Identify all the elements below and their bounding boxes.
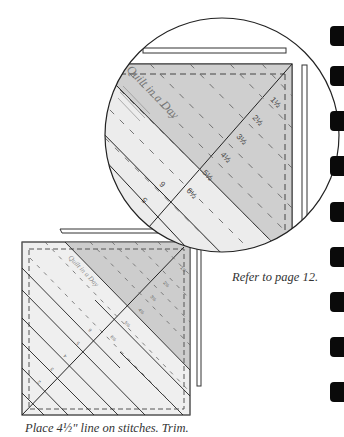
refer-caption: Refer to page 12. <box>232 270 318 285</box>
edge-tab <box>330 111 344 131</box>
edge-tab <box>330 247 344 267</box>
edge-tab <box>330 292 344 312</box>
edge-tab <box>330 202 344 222</box>
edge-tab <box>330 66 344 86</box>
edge-tab <box>330 156 344 176</box>
edge-tab <box>330 26 344 46</box>
small-ruler-square: 1½ 2½ 3½ 4½ 5½ 6½ 6 5 4 3 2 Quilt in a D… <box>22 229 201 415</box>
edge-tab <box>330 382 344 402</box>
instruction-caption: Place 4½" line on stitches. Trim. <box>25 421 189 436</box>
edge-tab <box>330 337 344 357</box>
